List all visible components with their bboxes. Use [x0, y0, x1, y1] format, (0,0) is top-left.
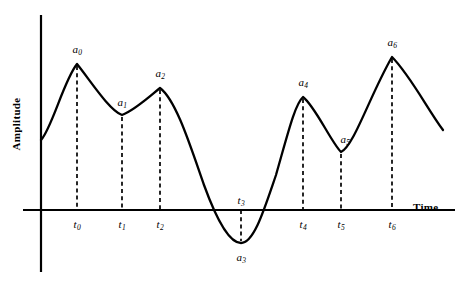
waveform-figure: Amplitude Time a0 a1 a2 a3 a4 a5 a6 t0 t… [0, 0, 458, 285]
amplitude-label-a3: a3 [236, 251, 245, 263]
time-label-t2: t2 [157, 218, 164, 230]
amplitude-label-a5: a5 [340, 133, 349, 145]
time-label-t1: t1 [119, 218, 126, 230]
waveform-curve [41, 57, 443, 243]
time-label-t6: t6 [389, 218, 396, 230]
amplitude-label-a0: a0 [72, 43, 81, 55]
amplitude-label-a6: a6 [387, 36, 396, 48]
amplitude-label-a1: a1 [117, 96, 126, 108]
y-axis-title: Amplitude [10, 89, 22, 159]
time-label-t3: t3 [238, 194, 245, 206]
amplitude-label-a2: a2 [155, 67, 164, 79]
amplitude-label-a4: a4 [298, 76, 307, 88]
x-axis-title: Time [413, 201, 438, 213]
time-label-t5: t5 [338, 218, 345, 230]
time-label-t0: t0 [74, 218, 81, 230]
time-label-t4: t4 [300, 218, 307, 230]
